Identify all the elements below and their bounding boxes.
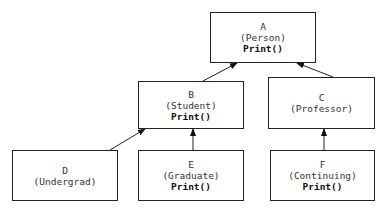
node-class: (Continuing) [288, 170, 357, 181]
node-method: Print() [243, 43, 283, 54]
node-c-professor: C (Professor) [268, 77, 375, 129]
node-class: (Student) [165, 100, 216, 111]
node-label: E [188, 159, 194, 170]
node-d-undergrad: D (Undergrad) [12, 150, 118, 201]
node-class: (Person) [240, 32, 286, 43]
node-b-student: B (Student) Print() [138, 81, 244, 129]
edge-b-to-a [203, 63, 237, 81]
node-f-continuing: F (Continuing) Print() [270, 150, 375, 201]
node-label: F [320, 159, 326, 170]
node-label: B [188, 89, 194, 100]
node-a-person: A (Person) Print() [210, 12, 316, 63]
node-class: (Undergrad) [34, 176, 97, 187]
edge-d-to-b [110, 129, 145, 150]
node-e-graduate: E (Graduate) Print() [138, 150, 244, 201]
node-label: A [260, 21, 266, 32]
node-method: Print() [302, 181, 342, 192]
node-label: C [319, 92, 325, 103]
node-label: D [62, 165, 68, 176]
edge-c-to-a [297, 63, 333, 77]
node-class: (Graduate) [162, 170, 219, 181]
node-class: (Professor) [290, 103, 353, 114]
node-method: Print() [171, 111, 211, 122]
node-method: Print() [171, 181, 211, 192]
